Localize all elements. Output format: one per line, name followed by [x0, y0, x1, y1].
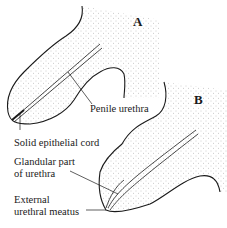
diagram-canvas: A B Penile urethra Solid epithelial cord…: [0, 0, 227, 228]
label-penile-urethra: Penile urethra: [90, 103, 149, 115]
label-solid-epithelial-cord: Solid epithelial cord: [14, 137, 99, 149]
panel-label-b: B: [194, 92, 203, 108]
label-external-meatus-line2: urethral meatus: [14, 206, 79, 218]
label-glandular-part-line2: of urethra: [14, 168, 55, 180]
panel-label-a: A: [133, 14, 142, 30]
label-glandular-part-line1: Glandular part: [14, 156, 75, 168]
label-external-meatus-line1: External: [14, 194, 50, 206]
